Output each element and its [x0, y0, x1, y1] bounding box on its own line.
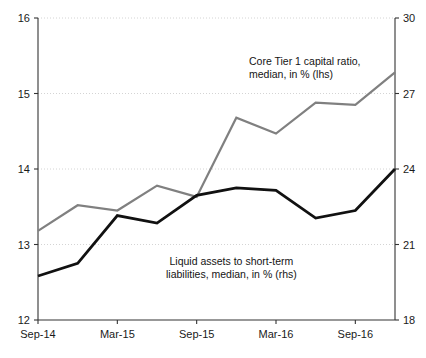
data-series-group [38, 72, 395, 276]
data-series-line-core-tier-1 [38, 72, 395, 231]
x-axis-tick-label: Sep-16 [338, 328, 373, 340]
chart-plot-area: 12131415161821242730Sep-14Mar-15Sep-15Ma… [0, 0, 426, 358]
x-axis-tick-label: Mar-15 [100, 328, 135, 340]
left-axis-tick-label: 12 [18, 314, 30, 326]
right-axis-tick-label: 27 [403, 88, 415, 100]
left-axis-tick-label: 13 [18, 239, 30, 251]
annotation-core-tier-1-line1: Core Tier 1 capital ratio, [249, 55, 360, 68]
annotation-core-tier-1-line2: median, in % (lhs) [249, 68, 360, 81]
x-axis-tick-label: Mar-16 [259, 328, 294, 340]
annotation-liquid-assets-line2: liabilities, median, in % (rhs) [166, 268, 297, 281]
right-axis-tick-label: 30 [403, 12, 415, 24]
x-axis-tick-label: Sep-14 [20, 328, 55, 340]
right-axis-tick-label: 24 [403, 163, 415, 175]
annotation-liquid-assets: Liquid assets to short-term liabilities,… [166, 255, 297, 281]
left-axis-tick-label: 16 [18, 12, 30, 24]
annotation-core-tier-1: Core Tier 1 capital ratio, median, in % … [249, 55, 360, 81]
right-axis-tick-label: 18 [403, 314, 415, 326]
gridlines-group [38, 18, 395, 245]
chart-container: 12131415161821242730Sep-14Mar-15Sep-15Ma… [0, 0, 426, 358]
right-axis-tick-label: 21 [403, 239, 415, 251]
left-axis-tick-label: 15 [18, 88, 30, 100]
x-tick-marks [38, 320, 355, 324]
annotation-liquid-assets-line1: Liquid assets to short-term [166, 255, 297, 268]
x-axis-tick-label: Sep-15 [179, 328, 214, 340]
left-axis-tick-label: 14 [18, 163, 30, 175]
